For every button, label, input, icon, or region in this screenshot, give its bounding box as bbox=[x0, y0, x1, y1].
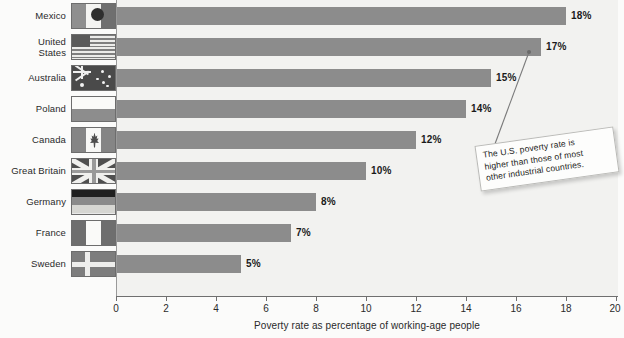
bar-value-great-britain: 10% bbox=[371, 162, 392, 180]
mexico-flag bbox=[71, 3, 116, 29]
bar-value-sweden: 5% bbox=[246, 255, 261, 273]
y-axis-line bbox=[116, 0, 117, 296]
x-tick-label: 16 bbox=[510, 303, 521, 314]
country-label: Mexico bbox=[35, 10, 71, 21]
country-label: Great Britain bbox=[11, 165, 71, 176]
row-australia: Australia bbox=[0, 62, 116, 93]
x-tick bbox=[416, 296, 417, 301]
poland-flag bbox=[71, 96, 116, 122]
x-tick bbox=[266, 296, 267, 301]
bar-value-australia: 15% bbox=[496, 69, 517, 87]
bar-canada bbox=[116, 131, 416, 149]
bar-united-states bbox=[116, 38, 541, 56]
row-mexico: Mexico bbox=[0, 0, 116, 31]
x-tick-label: 8 bbox=[313, 303, 319, 314]
x-tick-label: 0 bbox=[113, 303, 119, 314]
country-label: Sweden bbox=[31, 258, 71, 269]
x-tick-label: 6 bbox=[263, 303, 269, 314]
country-label: Germany bbox=[26, 196, 71, 207]
x-tick-label: 4 bbox=[213, 303, 219, 314]
country-label: United States bbox=[38, 36, 71, 58]
x-tick-label: 2 bbox=[163, 303, 169, 314]
row-great-britain: Great Britain bbox=[0, 155, 116, 186]
x-tick bbox=[366, 296, 367, 301]
x-tick-label: 18 bbox=[560, 303, 571, 314]
x-tick bbox=[566, 296, 567, 301]
bar-great-britain bbox=[116, 162, 366, 180]
x-tick-label: 12 bbox=[410, 303, 421, 314]
bar-value-united-states: 17% bbox=[546, 38, 567, 56]
bar-sweden bbox=[116, 255, 241, 273]
bar-france bbox=[116, 224, 291, 242]
france-flag bbox=[71, 220, 116, 246]
x-tick bbox=[516, 296, 517, 301]
country-label: France bbox=[36, 227, 71, 238]
x-tick bbox=[616, 296, 617, 301]
row-poland: Poland bbox=[0, 93, 116, 124]
x-axis-title: Poverty rate as percentage of working-ag… bbox=[116, 320, 618, 331]
x-tick-label: 14 bbox=[460, 303, 471, 314]
x-tick bbox=[466, 296, 467, 301]
australia-flag bbox=[71, 65, 116, 91]
row-sweden: Sweden bbox=[0, 248, 116, 279]
sweden-flag bbox=[71, 251, 116, 277]
x-tick bbox=[166, 296, 167, 301]
row-germany: Germany bbox=[0, 186, 116, 217]
bar-poland bbox=[116, 100, 466, 118]
bar-germany bbox=[116, 193, 316, 211]
x-axis-line bbox=[116, 296, 618, 297]
germany-flag bbox=[71, 189, 116, 215]
x-tick-label: 20 bbox=[609, 303, 620, 314]
row-canada: Canada bbox=[0, 124, 116, 155]
x-tick bbox=[316, 296, 317, 301]
row-united-states: United States bbox=[0, 31, 116, 62]
bar-value-mexico: 18% bbox=[571, 7, 592, 25]
poverty-rate-chart: Mexico United States Australia bbox=[0, 0, 624, 338]
canada-flag bbox=[71, 127, 116, 153]
country-label: Australia bbox=[28, 72, 71, 83]
bar-value-poland: 14% bbox=[471, 100, 492, 118]
x-tick bbox=[216, 296, 217, 301]
bar-value-france: 7% bbox=[296, 224, 311, 242]
country-label: Poland bbox=[36, 103, 71, 114]
united-states-flag bbox=[71, 34, 116, 60]
bar-mexico bbox=[116, 7, 566, 25]
x-tick-label: 10 bbox=[360, 303, 371, 314]
row-france: France bbox=[0, 217, 116, 248]
bar-australia bbox=[116, 69, 491, 87]
x-tick bbox=[116, 296, 117, 301]
bar-value-germany: 8% bbox=[321, 193, 336, 211]
country-label: Canada bbox=[32, 134, 71, 145]
bar-value-canada: 12% bbox=[421, 131, 442, 149]
great-britain-flag bbox=[71, 158, 116, 184]
